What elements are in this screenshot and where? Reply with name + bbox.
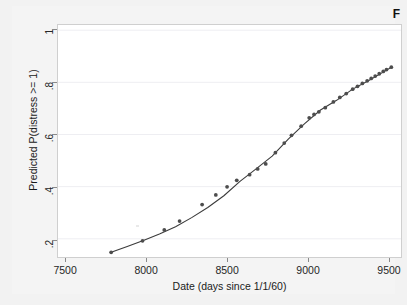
y-tick-mark xyxy=(52,29,57,30)
x-tick-mark xyxy=(65,258,66,262)
data-point xyxy=(365,79,369,83)
y-tick-label: .8 xyxy=(45,82,55,90)
data-point xyxy=(248,173,252,177)
y-tick-mark xyxy=(52,82,57,83)
data-point xyxy=(264,162,268,166)
data-point xyxy=(141,239,145,243)
data-point xyxy=(225,185,229,189)
data-point xyxy=(338,96,342,100)
x-axis: Date (days since 1/1/60) 750080008500900… xyxy=(57,258,402,298)
y-tick-label: .6 xyxy=(45,134,55,142)
x-axis-title: Date (days since 1/1/60) xyxy=(57,280,402,292)
data-point xyxy=(162,228,166,232)
x-tick-label: 8500 xyxy=(215,264,238,276)
plot-region xyxy=(57,24,402,258)
data-point xyxy=(274,151,278,155)
data-point xyxy=(214,193,218,197)
x-tick-mark xyxy=(308,258,309,262)
data-point xyxy=(282,141,286,145)
data-point xyxy=(381,70,385,74)
data-point xyxy=(331,100,335,104)
data-point xyxy=(299,124,303,128)
data-point xyxy=(178,219,182,223)
data-point xyxy=(323,106,327,110)
data-point xyxy=(360,82,364,86)
data-point xyxy=(109,250,113,254)
data-point xyxy=(385,68,389,72)
fit-curve-path xyxy=(111,67,391,252)
x-tick-mark xyxy=(389,258,390,262)
figure-container: Predicted P(distress >= 1) .2.4.6.81 Dat… xyxy=(0,0,407,305)
y-tick-mark xyxy=(52,187,57,188)
data-point xyxy=(256,167,260,171)
plot-svg xyxy=(58,25,401,257)
x-tick-mark xyxy=(227,258,228,262)
x-tick-label: 9000 xyxy=(296,264,319,276)
y-tick-label: .2 xyxy=(45,240,55,248)
data-point xyxy=(351,87,355,91)
scan-speck xyxy=(136,225,139,227)
data-point xyxy=(307,116,311,120)
data-point xyxy=(373,74,377,78)
data-markers-group xyxy=(109,65,393,254)
y-tick-mark xyxy=(52,134,57,135)
x-tick-label: 8000 xyxy=(134,264,157,276)
y-axis: Predicted P(distress >= 1) .2.4.6.81 xyxy=(12,6,57,258)
x-tick-label: 7500 xyxy=(53,264,76,276)
caption-fragment: F xyxy=(393,7,400,21)
data-point xyxy=(317,110,321,114)
data-point xyxy=(377,72,381,76)
data-point xyxy=(369,77,373,81)
y-tick-mark xyxy=(52,240,57,241)
x-tick-label: 9500 xyxy=(377,264,400,276)
y-axis-title: Predicted P(distress >= 1) xyxy=(27,30,39,230)
gridlines-group xyxy=(58,30,401,239)
data-point xyxy=(235,178,239,182)
data-point xyxy=(290,133,294,137)
data-point xyxy=(356,84,360,88)
data-point xyxy=(312,113,316,117)
x-tick-mark xyxy=(146,258,147,262)
y-tick-label: .4 xyxy=(45,187,55,195)
graph-canvas: Predicted P(distress >= 1) .2.4.6.81 Dat… xyxy=(12,6,395,294)
data-point xyxy=(389,65,393,69)
data-point xyxy=(344,92,348,96)
data-point xyxy=(200,203,204,207)
